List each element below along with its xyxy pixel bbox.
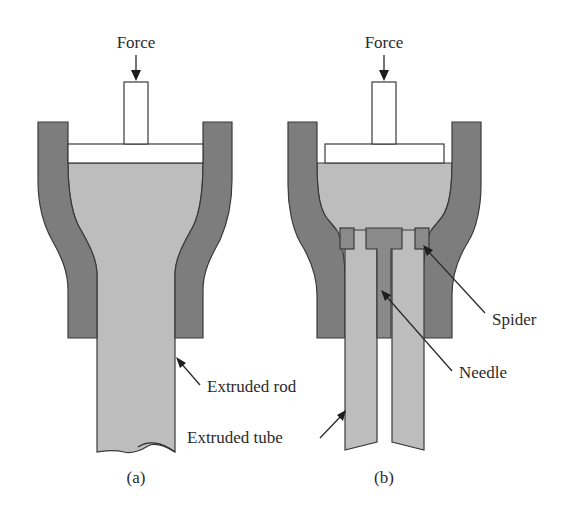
spider-label: Spider	[492, 310, 537, 329]
spider-right	[415, 228, 429, 249]
plunger-rod-a	[124, 82, 148, 144]
spider-left	[340, 228, 354, 249]
needle-label: Needle	[459, 363, 507, 382]
extruded-tube-right	[392, 230, 424, 450]
force-label-b: Force	[365, 33, 404, 52]
extruded-rod-label: Extruded rod	[207, 377, 297, 396]
tube-leader-arrow-icon	[320, 410, 346, 438]
rod-leader-arrow-icon	[176, 357, 200, 385]
extruded-tube-left	[345, 230, 377, 450]
force-arrow-a-icon	[131, 55, 141, 81]
caption-b: (b)	[374, 468, 394, 487]
plunger-rod-b	[372, 82, 396, 144]
extrusion-diagram: Force Extruded rod (a) Force	[0, 0, 584, 522]
force-label-a: Force	[117, 33, 156, 52]
force-arrow-b-icon	[379, 55, 389, 81]
plunger-plate-a	[68, 144, 203, 163]
panel-b: Force Spider Needle	[187, 33, 537, 487]
caption-a: (a)	[127, 468, 146, 487]
extruded-tube-label: Extruded tube	[187, 428, 283, 447]
panel-a: Force Extruded rod (a)	[38, 33, 297, 487]
plunger-plate-b	[325, 144, 444, 163]
